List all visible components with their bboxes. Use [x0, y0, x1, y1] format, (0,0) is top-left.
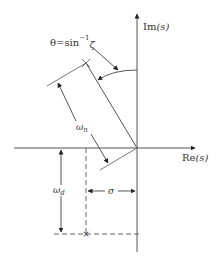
s-plane-diagram: Im(s) Re(s) ωn θ=sin−1ζ ωd σ × [0, 0, 218, 261]
omega-n-arrow-top [58, 83, 76, 121]
real-axis-label: Re(s) [182, 152, 208, 163]
omega-d-label: ωd [53, 185, 65, 197]
theta-label: θ=sin−1ζ [50, 34, 96, 50]
omega-n-label: ωn [76, 122, 88, 134]
theta-leader-arrow [92, 47, 118, 70]
omega-n-extension-top [47, 63, 86, 86]
imaginary-axis-label: Im(s) [143, 21, 169, 32]
radial-line [86, 63, 137, 148]
theta-arc [98, 70, 137, 80]
pole-marker: × [82, 229, 90, 239]
sigma-label: σ [108, 186, 115, 196]
